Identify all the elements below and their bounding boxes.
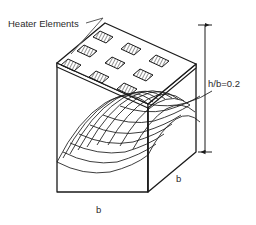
diagram-root: Heater Elements h/b=0.2 b b — [0, 0, 256, 225]
depth-dimension-label: b — [176, 173, 181, 184]
width-dimension-label: b — [96, 204, 101, 215]
aspect-ratio-label: h/b=0.2 — [208, 78, 240, 89]
heater-enclosure-diagram: Heater Elements h/b=0.2 b b — [0, 0, 256, 225]
heater-elements-label: Heater Elements — [8, 18, 79, 29]
